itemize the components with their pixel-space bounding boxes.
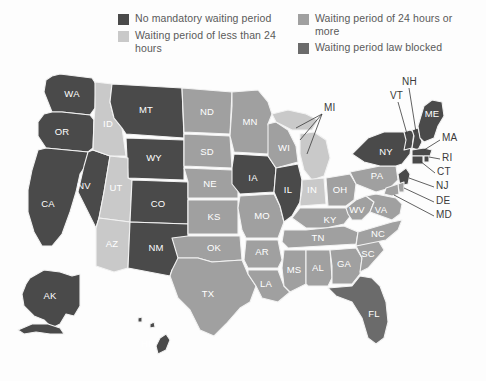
us-choropleth-map: WA OR CA NV ID MT WY UT AZ CO NM ND SD N… xyxy=(0,62,486,381)
legend-swatch-none xyxy=(118,14,129,25)
state-label-WY: WY xyxy=(146,152,162,163)
state-label-SC: SC xyxy=(361,248,375,259)
state-label-OK: OK xyxy=(207,242,222,253)
state-label-IL: IL xyxy=(284,184,292,195)
state-HI-small2[interactable] xyxy=(138,317,142,322)
state-label-FL: FL xyxy=(368,308,380,319)
legend-column-left: No mandatory waiting period Waiting peri… xyxy=(118,12,280,54)
state-label-AZ: AZ xyxy=(106,238,119,249)
callout-label-CT: CT xyxy=(437,166,451,177)
leader-RI xyxy=(429,157,440,159)
state-label-PA: PA xyxy=(371,170,384,181)
state-label-TN: TN xyxy=(311,232,324,243)
state-label-ID: ID xyxy=(103,118,113,129)
legend-label-none: No mandatory waiting period xyxy=(135,12,271,25)
infographic-canvas: No mandatory waiting period Waiting peri… xyxy=(0,0,486,381)
state-label-NY: NY xyxy=(379,146,393,157)
callout-label-RI: RI xyxy=(442,152,452,163)
state-label-AK: AK xyxy=(43,290,57,301)
state-label-CO: CO xyxy=(151,198,166,209)
state-label-MN: MN xyxy=(242,116,257,127)
state-label-NC: NC xyxy=(371,228,385,239)
callout-label-NJ: NJ xyxy=(436,180,449,191)
state-label-VA: VA xyxy=(375,204,388,215)
state-label-OR: OR xyxy=(55,126,70,137)
callout-label-DE: DE xyxy=(436,195,450,206)
state-KY[interactable] xyxy=(292,208,352,228)
legend-item-less-than-24: Waiting period of less than 24 hours xyxy=(118,29,280,54)
legend-label-less-than-24: Waiting period of less than 24 hours xyxy=(135,29,280,54)
state-label-MO: MO xyxy=(254,210,270,221)
state-label-NV: NV xyxy=(77,180,91,191)
state-label-IN: IN xyxy=(307,184,317,195)
state-label-CA: CA xyxy=(41,198,55,209)
state-label-HI: HI xyxy=(141,338,151,349)
legend-item-none: No mandatory waiting period xyxy=(118,12,280,25)
leader-NH xyxy=(409,88,416,132)
legend-column-right: Waiting period of 24 hours or more Waiti… xyxy=(298,12,460,54)
state-HI-small1[interactable] xyxy=(150,322,155,328)
state-label-MS: MS xyxy=(287,264,302,275)
state-label-TX: TX xyxy=(202,288,215,299)
legend-swatch-blocked xyxy=(298,43,309,54)
state-label-MT: MT xyxy=(139,104,153,115)
state-HI[interactable] xyxy=(156,334,170,354)
callout-label-VT: VT xyxy=(390,90,403,101)
state-CA[interactable] xyxy=(28,148,88,246)
legend-item-blocked: Waiting period law blocked xyxy=(298,41,460,54)
state-label-SD: SD xyxy=(200,146,214,157)
state-label-IA: IA xyxy=(248,172,258,183)
legend-item-24-or-more: Waiting period of 24 hours or more xyxy=(298,12,460,37)
state-label-LA: LA xyxy=(260,278,272,289)
callout-label-MA: MA xyxy=(442,132,458,143)
state-MI-lower[interactable] xyxy=(300,132,330,180)
callout-label-NH: NH xyxy=(402,76,417,87)
map-legend: No mandatory waiting period Waiting peri… xyxy=(118,12,478,54)
state-label-WV: WV xyxy=(349,204,365,215)
legend-label-blocked: Waiting period law blocked xyxy=(315,41,442,54)
state-label-AR: AR xyxy=(255,246,269,257)
state-label-OH: OH xyxy=(333,184,348,195)
state-label-WA: WA xyxy=(64,88,80,99)
leader-DE xyxy=(404,188,434,202)
state-label-AL: AL xyxy=(312,262,324,273)
state-label-ND: ND xyxy=(200,106,214,117)
leader-NJ xyxy=(409,178,434,187)
state-label-GA: GA xyxy=(337,258,352,269)
state-label-UT: UT xyxy=(109,182,122,193)
state-ME[interactable] xyxy=(418,100,444,142)
callout-label-MI: MI xyxy=(324,102,336,113)
state-label-KY: KY xyxy=(323,214,337,225)
leader-CT xyxy=(420,161,435,173)
state-label-WI: WI xyxy=(278,142,290,153)
legend-swatch-less-than-24 xyxy=(118,31,129,42)
callout-label-MD: MD xyxy=(436,209,452,220)
legend-label-24-or-more: Waiting period of 24 hours or more xyxy=(315,12,460,37)
legend-swatch-24-or-more xyxy=(298,14,309,25)
leader-VT xyxy=(398,102,407,134)
state-MA[interactable] xyxy=(412,148,432,156)
state-CT[interactable] xyxy=(412,156,423,164)
state-label-KS: KS xyxy=(207,211,220,222)
state-label-NE: NE xyxy=(203,178,217,189)
state-label-ME: ME xyxy=(425,108,440,119)
state-label-NM: NM xyxy=(148,242,163,253)
us-map-svg: WA OR CA NV ID MT WY UT AZ CO NM ND SD N… xyxy=(0,62,486,381)
state-RI[interactable] xyxy=(424,156,429,162)
